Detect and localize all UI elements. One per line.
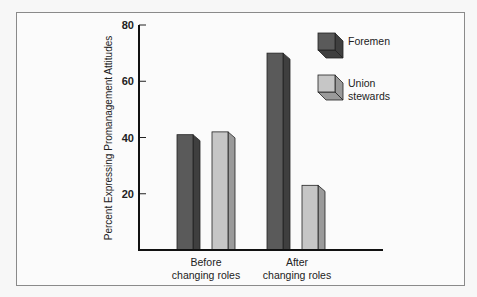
category-label: changing roles <box>172 269 240 281</box>
legend-label: Foremen <box>348 35 390 47</box>
legend-label: Union <box>348 77 376 89</box>
bar-union-stewards <box>212 132 235 250</box>
y-axis-ticks: 20406080 <box>122 19 146 200</box>
category-label: After <box>286 256 309 268</box>
x-axis-labels: Beforechanging rolesAfterchanging roles <box>172 256 331 281</box>
bars <box>177 53 325 250</box>
category-label: Before <box>191 256 222 268</box>
y-tick-label: 20 <box>122 188 134 200</box>
y-axis-title: Percent Expressing Promanagement Attitud… <box>103 36 114 241</box>
legend-label: stewards <box>348 90 390 102</box>
bar-foremen <box>177 135 200 250</box>
y-tick-label: 40 <box>122 132 134 144</box>
y-tick-label: 80 <box>122 19 134 31</box>
bar-chart: Percent Expressing Promanagement Attitud… <box>0 0 477 297</box>
legend-swatch <box>318 33 335 50</box>
bar-foremen <box>267 53 290 250</box>
legend-item: Foremen <box>318 33 390 58</box>
legend-swatch <box>318 75 335 92</box>
bar-union-stewards <box>302 185 325 250</box>
y-tick-label: 60 <box>122 75 134 87</box>
legend: ForemenUnionstewards <box>318 33 390 102</box>
legend-item: Unionstewards <box>318 75 390 102</box>
category-label: changing roles <box>263 269 331 281</box>
